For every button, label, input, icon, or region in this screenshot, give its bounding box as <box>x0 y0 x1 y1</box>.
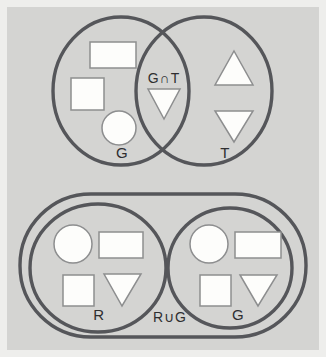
label-set-g-top: G <box>116 144 128 161</box>
intersection-panel: G∩T G T <box>53 17 272 165</box>
triangle-down-shape <box>215 111 253 142</box>
triangle-down-shape <box>240 275 277 306</box>
rectangle-shape <box>90 42 136 68</box>
square-shape <box>63 275 94 306</box>
label-set-g-bottom: G <box>232 306 244 323</box>
label-set-r-bottom: R <box>93 306 104 323</box>
venn-diagram: G∩T G T R G R∪G <box>0 0 326 357</box>
circle-shape <box>102 111 136 145</box>
diagram-canvas: G∩T G T R G R∪G <box>0 0 326 357</box>
label-set-t-top: T <box>220 144 230 161</box>
rectangle-shape <box>99 232 143 258</box>
circle-shape <box>190 225 228 263</box>
label-r-union-g: R∪G <box>153 309 187 325</box>
square-shape <box>71 78 104 110</box>
triangle-down-shape-overlap <box>148 89 180 119</box>
rectangle-shape <box>235 232 281 258</box>
label-g-intersect-t: G∩T <box>148 70 181 86</box>
triangle-down-shape <box>104 274 141 306</box>
union-panel: R G R∪G <box>20 194 306 337</box>
circle-shape <box>54 225 92 263</box>
triangle-up-shape <box>215 51 253 85</box>
square-shape <box>200 275 231 306</box>
